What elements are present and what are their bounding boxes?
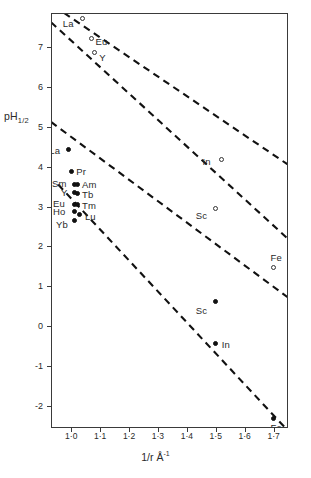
y-axis-label-text: pH [4,110,18,122]
x-tick-mark [100,428,101,432]
y-tick-label: 3 [23,202,43,212]
y-tick-label: 2 [23,241,43,251]
x-tick-mark [216,428,217,432]
x-axis-label-sup: -1 [163,450,169,457]
x-tick-label: 1·4 [181,431,193,441]
x-tick-mark [158,428,159,432]
x-tick-label: 1·2 [123,431,135,441]
y-tick-label: 1 [23,281,43,291]
x-tick-mark [129,428,130,432]
x-tick-mark [71,428,72,432]
x-tick-mark [187,428,188,432]
x-tick-label: 1·5 [210,431,222,441]
x-tick-label: 1·0 [65,431,77,441]
x-tick-label: 1·7 [267,431,279,441]
y-tick-label: 7 [23,42,43,52]
x-axis-label: 1/r Å-1 [0,450,311,463]
y-tick-label: 0 [23,321,43,331]
x-axis-label-text: 1/r Å [141,451,163,463]
y-tick-label: -2 [23,401,43,411]
y-tick-label: 6 [23,82,43,92]
y-tick-label: 5 [23,122,43,132]
x-tick-mark [245,428,246,432]
x-tick-label: 1·6 [238,431,250,441]
x-tick-label: 1·1 [94,431,106,441]
y-tick-label: 4 [23,162,43,172]
plot-frame [51,13,288,428]
x-tick-mark [274,428,275,432]
chart-figure: pH1/2 1/r Å-1 76543210-1-2 1·01·11·21·31… [0,0,311,478]
y-tick-label: -1 [23,361,43,371]
x-tick-label: 1·3 [152,431,164,441]
